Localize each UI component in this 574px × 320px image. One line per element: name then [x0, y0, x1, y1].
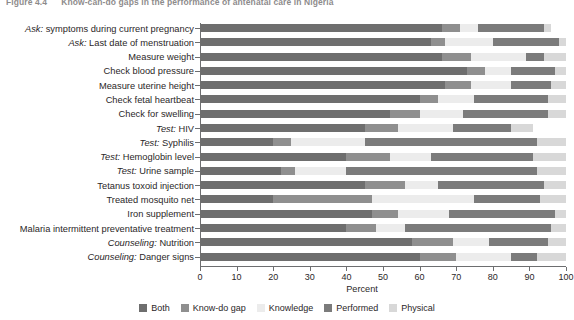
- table-row[interactable]: [200, 195, 566, 203]
- bar-segment: [372, 195, 474, 203]
- x-axis-tick-label: 20: [268, 272, 278, 282]
- x-axis-tick: [273, 267, 274, 271]
- bar-segment: [511, 81, 551, 89]
- chart-legend: BothKnow-do gapKnowledgePerformedPhysica…: [0, 303, 574, 313]
- legend-swatch-icon: [324, 304, 332, 312]
- x-axis-tick: [310, 267, 311, 271]
- category-label: Iron supplement: [0, 209, 194, 219]
- table-row[interactable]: [200, 53, 566, 61]
- bar-segment: [511, 124, 533, 132]
- bar-segment: [449, 210, 555, 218]
- bar-segment: [540, 195, 566, 203]
- table-row[interactable]: [200, 95, 566, 103]
- bar-segment: [200, 238, 412, 246]
- category-label: Counseling: Danger signs: [0, 252, 194, 262]
- bar-segment: [200, 210, 372, 218]
- bar-segment: [200, 95, 420, 103]
- category-label: Check for swelling: [0, 109, 194, 119]
- bar-segment: [474, 95, 547, 103]
- table-row[interactable]: [200, 224, 566, 232]
- bar-segment: [533, 153, 566, 161]
- bar-segment: [200, 153, 346, 161]
- legend-label: Know-do gap: [193, 303, 246, 313]
- bar-segment: [420, 110, 464, 118]
- bar-segment: [291, 138, 364, 146]
- legend-label: Both: [151, 303, 170, 313]
- bar-segment: [200, 81, 445, 89]
- legend-item[interactable]: Know-do gap: [181, 303, 246, 313]
- bar-segment: [295, 167, 346, 175]
- bar-segment: [372, 210, 398, 218]
- table-row[interactable]: [200, 210, 566, 218]
- bar-segment: [412, 238, 452, 246]
- table-row[interactable]: [200, 81, 566, 89]
- bar-segment: [511, 67, 555, 75]
- legend-item[interactable]: Knowledge: [257, 303, 314, 313]
- bar-segment: [467, 67, 485, 75]
- table-row[interactable]: [200, 124, 533, 132]
- bar-segment: [478, 24, 544, 32]
- table-row[interactable]: [200, 138, 566, 146]
- bar-segment: [346, 153, 390, 161]
- bar-segment: [346, 167, 536, 175]
- legend-item[interactable]: Performed: [324, 303, 378, 313]
- bar-segment: [551, 224, 566, 232]
- bar-segment: [555, 67, 566, 75]
- x-axis-tick: [456, 267, 457, 271]
- bar-segment: [471, 53, 526, 61]
- bar-segment: [398, 210, 449, 218]
- category-label-keyword: Counseling:: [88, 252, 137, 262]
- bar-segment: [485, 67, 511, 75]
- category-label-keyword: Test:: [140, 138, 160, 148]
- x-axis-tick: [383, 267, 384, 271]
- category-label: Test: Syphilis: [0, 138, 194, 148]
- bar-segment: [489, 238, 548, 246]
- table-row[interactable]: [200, 253, 566, 261]
- legend-swatch-icon: [389, 304, 397, 312]
- table-row[interactable]: [200, 238, 566, 246]
- bar-segment: [390, 110, 419, 118]
- table-row[interactable]: [200, 110, 566, 118]
- category-label: Treated mosquito net: [0, 195, 194, 205]
- category-label-keyword: Ask:: [25, 24, 43, 34]
- table-row[interactable]: [200, 153, 566, 161]
- legend-label: Performed: [336, 303, 378, 313]
- bar-segment: [474, 195, 540, 203]
- category-label: Malaria intermittent preventative treatm…: [0, 224, 194, 234]
- x-axis-tick: [237, 267, 238, 271]
- bar-segment: [420, 253, 457, 261]
- category-label: Test: HIV: [0, 124, 194, 134]
- bar-segment: [463, 110, 547, 118]
- bar-segment: [511, 253, 537, 261]
- figure-title-text: Know-can-do gaps in the performance of a…: [61, 0, 333, 7]
- bar-segment: [453, 238, 490, 246]
- x-axis-tick-label: 50: [378, 272, 388, 282]
- bar-segment: [273, 195, 372, 203]
- bar-segment: [200, 53, 442, 61]
- bar-segment: [200, 38, 431, 46]
- category-label: Check blood pressure: [0, 66, 194, 76]
- bar-segment: [200, 67, 467, 75]
- legend-item[interactable]: Both: [139, 303, 170, 313]
- table-row[interactable]: [200, 167, 566, 175]
- x-axis-tick: [420, 267, 421, 271]
- bar-segment: [200, 110, 390, 118]
- bar-segment: [438, 95, 475, 103]
- x-axis-tick-label: 10: [232, 272, 242, 282]
- bar-segment: [420, 95, 438, 103]
- category-label: Measure uterine height: [0, 81, 194, 91]
- table-row[interactable]: [200, 38, 566, 46]
- bar-segment: [559, 38, 566, 46]
- bar-segment: [398, 124, 453, 132]
- bar-segment: [548, 110, 566, 118]
- bar-segment: [445, 38, 493, 46]
- bar-segment: [365, 181, 405, 189]
- bar-segment: [460, 24, 478, 32]
- bar-segment: [200, 138, 273, 146]
- bar-segment: [376, 224, 405, 232]
- bar-segment: [453, 124, 512, 132]
- table-row[interactable]: [200, 181, 566, 189]
- table-row[interactable]: [200, 24, 551, 32]
- table-row[interactable]: [200, 67, 566, 75]
- legend-item[interactable]: Physical: [389, 303, 435, 313]
